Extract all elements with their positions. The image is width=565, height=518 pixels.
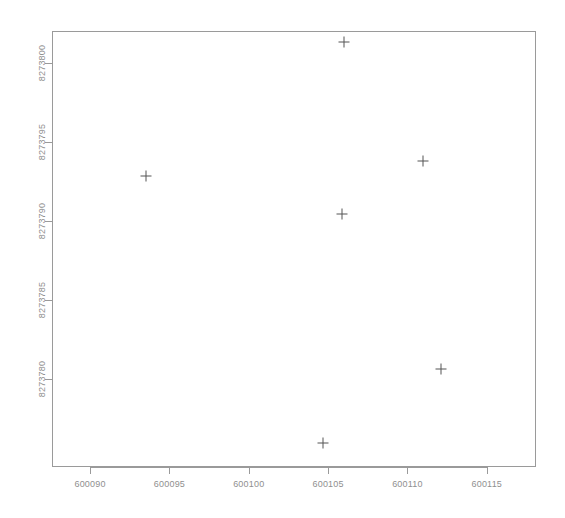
x-tick-mark	[328, 467, 329, 474]
scatter-plot-figure: 600090600095600100600105600110600115 827…	[0, 0, 565, 518]
y-tick-label: 8273795	[37, 123, 47, 159]
x-tick-label: 600090	[74, 479, 105, 489]
y-tick-label: 8273780	[37, 360, 47, 396]
y-tick-label: 8273790	[37, 202, 47, 238]
y-axis-line	[52, 71, 53, 388]
x-tick-label: 600115	[472, 479, 503, 489]
x-tick-mark	[487, 467, 488, 474]
y-tick-label: 8273800	[37, 44, 47, 80]
x-tick-mark	[407, 467, 408, 474]
x-tick-label: 600105	[312, 479, 343, 489]
x-tick-label: 600110	[392, 479, 423, 489]
plot-area-border	[52, 31, 536, 467]
x-tick-mark	[249, 467, 250, 474]
x-tick-label: 600100	[233, 479, 264, 489]
x-tick-mark	[90, 467, 91, 474]
x-tick-label: 600095	[154, 479, 185, 489]
y-tick-label: 8273785	[37, 281, 47, 317]
x-axis-line	[90, 467, 487, 468]
x-tick-mark	[169, 467, 170, 474]
